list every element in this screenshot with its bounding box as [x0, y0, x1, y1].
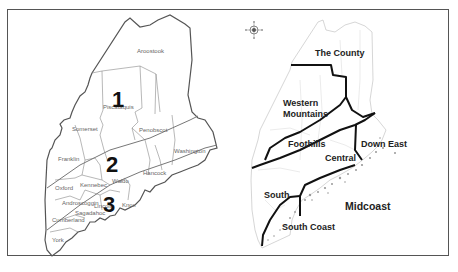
county-label-aroostook: Aroostook [137, 48, 165, 54]
region-label-midcoast: Midcoast [345, 200, 391, 212]
region-label-south-coast: South Coast [282, 222, 335, 232]
zone-number-1: 1 [112, 87, 124, 112]
county-label-kennebec: Kennebec [80, 182, 107, 188]
zone-number-2: 2 [106, 152, 118, 177]
county-label-york: York [52, 237, 65, 243]
region-label-the-county: The County [315, 48, 365, 58]
county-label-somerset: Somerset [72, 126, 98, 132]
zone-number-3: 3 [103, 192, 115, 217]
county-label-cumberland: Cumberland [52, 217, 85, 223]
region-label-south: South [264, 190, 290, 200]
compass-rose-icon [245, 21, 263, 39]
county-label-franklin: Franklin [58, 156, 79, 162]
county-label-hancock: Hancock [143, 170, 167, 176]
left-map: Aroostook Piscataquis Somerset Penobscot… [45, 15, 217, 256]
county-label-sagadahoc: Sagadahoc [75, 210, 105, 216]
county-label-waldo: Waldo [112, 178, 129, 184]
county-label-oxford: Oxford [55, 185, 73, 191]
maps-canvas: Aroostook Piscataquis Somerset Penobscot… [0, 0, 458, 272]
region-label-foothills: Foothills [288, 139, 326, 149]
right-map: The County Western Mountains Foothills C… [245, 20, 407, 248]
region-label-central: Central [325, 153, 356, 163]
region-label-western-mountains-line2: Mountains [283, 109, 328, 119]
region-label-western-mountains-line1: Western [283, 98, 318, 108]
county-label-penobscot: Penobscot [139, 127, 168, 133]
county-label-washington: Washington [174, 148, 205, 154]
county-label-knox: Knox [122, 202, 136, 208]
region-label-down-east: Down East [361, 139, 407, 149]
